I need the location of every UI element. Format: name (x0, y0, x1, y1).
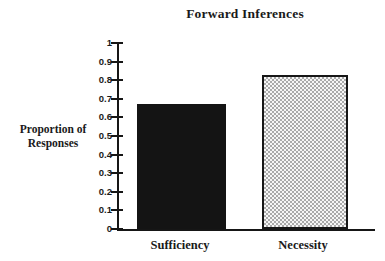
y-tick-label: 0.5 (99, 130, 112, 142)
y-tick-mark (111, 116, 123, 118)
y-tick-label: 0.7 (99, 93, 112, 105)
y-tick-mark (111, 172, 123, 174)
y-tick-label: 0.2 (99, 186, 112, 198)
bar-necessity (262, 75, 348, 229)
y-axis-label-line1: Proportion of (8, 123, 98, 137)
y-tick-label: 0.4 (99, 149, 112, 161)
y-tick-mark (111, 228, 123, 230)
y-tick-label: 0.9 (99, 56, 112, 68)
x-tick-label-necessity: Necessity (238, 238, 368, 253)
y-tick-label: 1 (107, 37, 112, 49)
y-tick-mark (111, 135, 123, 137)
y-axis-label: Proportion of Responses (8, 123, 98, 150)
chart-title: Forward Inferences (117, 6, 373, 22)
y-tick-mark (111, 191, 123, 193)
y-axis-label-line2: Responses (8, 137, 98, 151)
y-tick-mark (111, 209, 123, 211)
y-tick-mark (111, 154, 123, 156)
bar-sufficiency (137, 104, 226, 229)
y-tick-mark (111, 98, 123, 100)
y-tick-mark (111, 61, 123, 63)
y-tick-mark (111, 42, 123, 44)
y-tick-label: 0 (107, 223, 112, 235)
y-tick-label: 0.6 (99, 111, 112, 123)
y-tick-label: 0.1 (99, 204, 112, 216)
bar-chart-figure: Forward Inferences Proportion of Respons… (0, 0, 385, 261)
y-tick-label: 0.3 (99, 167, 112, 179)
x-tick-label-sufficiency: Sufficiency (115, 238, 245, 253)
plot-area: 10.90.80.70.60.50.40.30.20.10 (117, 43, 375, 231)
y-tick-label: 0.8 (99, 74, 112, 86)
y-tick-mark (111, 79, 123, 81)
